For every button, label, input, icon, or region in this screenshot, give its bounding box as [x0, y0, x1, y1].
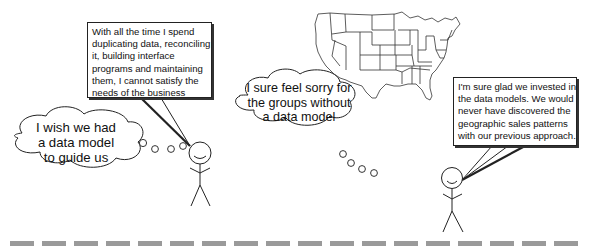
thought-dot — [371, 170, 378, 177]
thought-line: a data model — [244, 110, 354, 125]
speech-line: geographic sales patterns — [458, 118, 572, 130]
ground-dash — [202, 241, 226, 246]
left-thought-text: I wish we had a data model to guide us — [26, 120, 126, 165]
speech-line: programs and maintaining — [92, 63, 207, 75]
left-stick-figure — [189, 142, 211, 206]
left-speech-box: With all the time I spend duplicating da… — [87, 22, 212, 98]
ground-dash — [106, 241, 130, 246]
ground-dash — [362, 241, 386, 246]
speech-line: I'm sure glad we invested in — [458, 81, 572, 93]
ground-dash — [394, 241, 418, 246]
right-speech-box: I'm sure glad we invested in the data mo… — [453, 77, 577, 146]
ground-dash — [458, 241, 482, 246]
left-speech-tail — [141, 98, 190, 146]
thought-line: I wish we had — [26, 120, 126, 135]
ground-dash — [298, 241, 322, 246]
ground-dash — [74, 241, 98, 246]
speech-line: never have discovered the — [458, 105, 572, 117]
thought-line: the groups without — [244, 96, 354, 111]
right-speech-tail — [462, 146, 525, 180]
thought-dot — [152, 146, 159, 153]
ground-dash — [522, 241, 546, 246]
thought-line: I sure feel sorry for — [244, 81, 354, 96]
ground-dash — [554, 241, 578, 246]
cartoon-scene: With all the time I spend duplicating da… — [0, 0, 589, 251]
ground-dash — [426, 241, 450, 246]
thought-line: to guide us — [26, 150, 126, 165]
ground-dash — [170, 241, 194, 246]
speech-line: the data models. We would — [458, 93, 572, 105]
thought-line: a data model — [26, 135, 126, 150]
right-stick-figure — [442, 168, 464, 233]
thought-dot — [359, 166, 366, 173]
speech-line: needs of the business — [92, 87, 207, 99]
ground-dash — [234, 241, 258, 246]
thought-dot — [168, 146, 175, 153]
ground-dash — [138, 241, 162, 246]
speech-line: with our previous approach. — [458, 130, 572, 142]
middle-thought-text: I sure feel sorry for the groups without… — [244, 81, 354, 125]
ground-dash — [10, 241, 34, 246]
speech-line: duplicating data, reconciling — [92, 38, 207, 50]
speech-line: it, building interface — [92, 50, 207, 62]
speech-line: them, I cannot satisfy the — [92, 75, 207, 87]
ground-dash — [266, 241, 290, 246]
thought-dot — [340, 151, 347, 158]
thought-dot — [348, 160, 355, 167]
speech-line: With all the time I spend — [92, 26, 207, 38]
thought-dot — [139, 139, 146, 146]
ground-dash — [42, 241, 66, 246]
ground-dash — [490, 241, 514, 246]
ground-dash — [330, 241, 354, 246]
thought-dot — [180, 143, 187, 150]
